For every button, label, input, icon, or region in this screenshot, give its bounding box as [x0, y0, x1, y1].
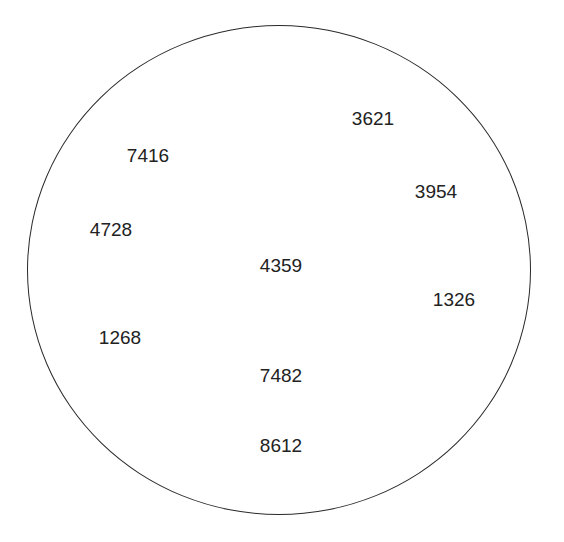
- number-label: 7416: [127, 146, 169, 165]
- number-label: 3621: [352, 109, 394, 128]
- number-label: 7482: [260, 366, 302, 385]
- number-label: 1326: [433, 290, 475, 309]
- number-label: 3954: [415, 182, 457, 201]
- number-label: 1268: [99, 328, 141, 347]
- number-label: 4359: [260, 256, 302, 275]
- number-circle-diagram: 3621 7416 3954 4728 4359 1326 1268 7482 …: [0, 0, 564, 542]
- number-label: 4728: [90, 220, 132, 239]
- number-label: 8612: [260, 436, 302, 455]
